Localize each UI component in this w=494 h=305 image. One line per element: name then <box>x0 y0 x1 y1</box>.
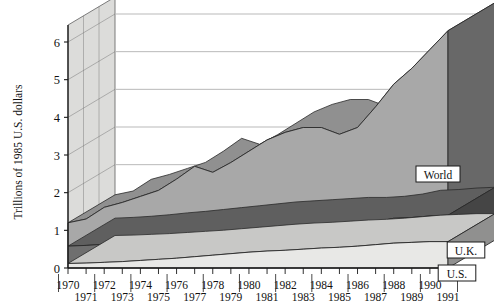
x-tick-label: 1970 <box>57 279 80 291</box>
x-tick-label: 1972 <box>93 279 116 291</box>
y-tick-label: 2 <box>54 186 60 200</box>
callout-world[interactable]: World <box>416 166 460 182</box>
x-tick-label: 1984 <box>310 279 333 291</box>
y-axis-title: Trillions of 1985 U.S. dollars <box>12 84 24 220</box>
x-tick-label: 1977 <box>183 291 206 303</box>
x-tick-label: 1978 <box>201 279 224 291</box>
x-tick-label: 1971 <box>75 291 98 303</box>
x-tick-label: 1991 <box>437 291 460 303</box>
x-tick-label: 1976 <box>165 279 188 291</box>
y-tick-label: 6 <box>54 36 60 50</box>
callout-us[interactable]: U.S. <box>438 265 476 281</box>
y-tick-label: 1 <box>54 224 60 238</box>
x-tick-label: 1988 <box>382 279 405 291</box>
stacked-area-chart-3d: 0123456 19701971197219731974197519761977… <box>0 0 494 305</box>
callout-uk[interactable]: U.K. <box>447 242 485 258</box>
y-tick-label: 4 <box>54 111 61 125</box>
y-tick-label: 5 <box>54 73 60 87</box>
y-axis-label: Trillions of 1985 U.S. dollars <box>12 84 24 220</box>
x-tick-label: 1975 <box>147 291 170 303</box>
chart-root: 0123456 19701971197219731974197519761977… <box>0 0 494 305</box>
callout-label: World <box>424 169 453 181</box>
x-tick-label: 1973 <box>111 291 134 303</box>
x-tick-label: 1986 <box>346 279 369 291</box>
x-tick-label: 1985 <box>328 291 351 303</box>
callout-label: U.K. <box>455 245 477 257</box>
x-tick-label: 1981 <box>256 291 279 303</box>
series-end-cap <box>448 3 494 216</box>
x-tick-label: 1987 <box>364 291 387 303</box>
x-tick-label: 1983 <box>292 291 315 303</box>
y-tick-label: 0 <box>54 262 60 276</box>
x-tick-label: 1980 <box>237 279 260 291</box>
x-tick-label: 1989 <box>400 291 423 303</box>
x-tick-label: 1982 <box>274 279 297 291</box>
callout-label: U.S. <box>447 268 468 280</box>
y-tick-label: 3 <box>54 149 60 163</box>
x-tick-label: 1979 <box>219 291 242 303</box>
x-tick-label: 1974 <box>129 279 152 291</box>
